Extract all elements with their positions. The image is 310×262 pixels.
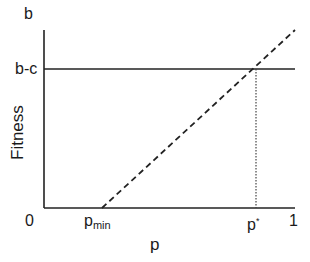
x-tick-pmin: pmin — [84, 213, 111, 233]
origin-label: 0 — [25, 213, 34, 229]
x-tick-pstar: p* — [247, 213, 259, 233]
y-tick-b: b — [24, 6, 33, 22]
y-tick-b-c: b-c — [15, 61, 37, 77]
chart-canvas — [0, 0, 310, 262]
y-axis-label: Fitness — [8, 105, 28, 160]
x-tick-one: 1 — [289, 213, 298, 229]
dashed-fitness-line — [102, 30, 295, 208]
x-axis-label: p — [150, 237, 159, 253]
